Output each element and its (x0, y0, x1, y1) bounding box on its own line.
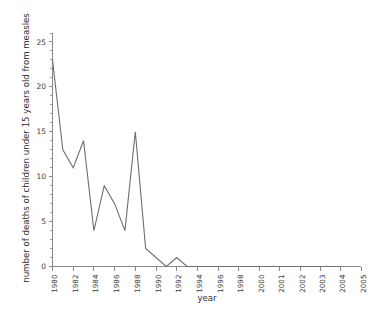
x-tick-label: 1994 (195, 274, 204, 293)
x-tick-label: 2005 (359, 275, 368, 293)
y-tick-label: 0 (41, 262, 46, 271)
x-axis-title-text: year (198, 293, 217, 303)
x-tick-label: 1990 (154, 274, 163, 293)
y-tick-label: 15 (36, 127, 46, 136)
x-tick-label: 1992 (174, 275, 183, 293)
x-tick-label: 1982 (71, 275, 80, 293)
x-tick-label: 2003 (318, 275, 327, 293)
y-tick-label: 25 (36, 38, 46, 47)
measles-deaths-line-chart: number of deaths of children under 15 ye… (0, 0, 377, 313)
y-tick-label: 10 (36, 172, 46, 181)
x-axis-ticks: 1980198219841986198819901992199419961998… (50, 267, 368, 293)
x-tick-label: 1986 (112, 274, 121, 293)
y-axis-ticks: 0510152025 (36, 33, 52, 271)
x-tick-label: 1984 (91, 274, 100, 293)
data-series-line (53, 60, 341, 267)
y-tick-label: 20 (36, 82, 46, 91)
x-tick-label: 2000 (257, 274, 266, 293)
x-tick-label: 1988 (133, 274, 142, 293)
x-tick-label: 2001 (277, 275, 286, 293)
x-tick-label: 1998 (236, 274, 245, 293)
y-axis-title: number of deaths of children under 15 ye… (21, 13, 31, 283)
x-tick-label: 2004 (338, 274, 347, 293)
chart-canvas: number of deaths of children under 15 ye… (0, 0, 377, 313)
y-tick-label: 5 (41, 217, 46, 226)
x-tick-label: 2002 (298, 275, 307, 293)
y-axis-title-text: number of deaths of children under 15 ye… (21, 13, 31, 283)
x-tick-label: 1996 (216, 274, 225, 293)
x-tick-label: 1980 (50, 274, 59, 293)
